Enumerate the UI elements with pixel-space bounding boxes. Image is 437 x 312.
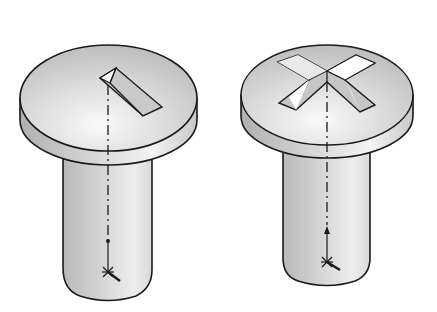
diagram-canvas bbox=[0, 0, 437, 312]
screws-illustration bbox=[0, 0, 437, 312]
slotted-screw bbox=[20, 45, 197, 301]
head-top bbox=[20, 45, 197, 151]
phillips-screw bbox=[241, 45, 413, 286]
